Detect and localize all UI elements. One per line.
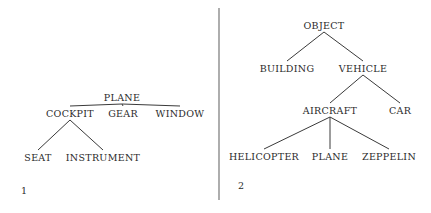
node-seat: SEAT [24,152,52,163]
edge-vehicle-car [363,75,400,103]
node-object: OBJECT [304,20,345,31]
edge-aircraft-zeppelin [330,117,389,149]
edge-cockpit-instrument [70,120,103,150]
node-plane: PLANE [104,92,140,103]
node-plane2: PLANE [312,151,348,162]
node-window: WINDOW [156,108,205,119]
node-zeppelin: ZEPPELIN [362,151,416,162]
edge-object-building [287,32,324,61]
node-aircraft: AIRCRAFT [302,105,358,116]
node-gear: GEAR [108,108,138,119]
node-helicopter: HELICOPTER [229,151,300,162]
node-vehicle: VEHICLE [338,63,387,74]
node-car: CAR [389,105,412,116]
edge-vehicle-aircraft [330,75,363,103]
panel-label-1: 1 [21,185,27,196]
edge-plane-cockpit [70,104,122,106]
node-cockpit: COCKPIT [46,108,94,119]
panel-label-2: 2 [238,180,244,191]
edge-aircraft-helicopter [264,117,330,149]
node-building: BUILDING [260,63,315,74]
node-instrument: INSTRUMENT [66,152,141,163]
edge-plane-window [122,104,180,106]
diagram-canvas: PLANECOCKPITGEARWINDOWSEATINSTRUMENT1OBJ… [0,0,431,213]
edge-cockpit-seat [38,120,70,150]
edge-object-vehicle [324,32,363,61]
